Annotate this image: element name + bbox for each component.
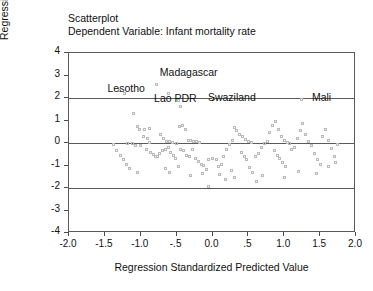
data-point	[115, 149, 118, 152]
x-tick-mark	[104, 232, 105, 236]
data-point	[201, 172, 204, 175]
case-label-lesotho: Lesotho	[107, 82, 144, 94]
data-point	[134, 144, 137, 147]
y-tick-label: 4	[40, 45, 60, 56]
data-point	[299, 129, 302, 132]
data-point	[168, 171, 171, 174]
chart-subtitle: Dependent Variable: Infant mortality rat…	[68, 25, 256, 38]
data-point	[324, 128, 327, 131]
data-point	[171, 141, 174, 144]
x-tick-mark	[140, 232, 141, 236]
data-point	[164, 167, 167, 170]
data-point	[261, 174, 264, 177]
data-point	[155, 83, 158, 86]
data-point	[177, 165, 180, 168]
data-point	[254, 155, 257, 158]
data-point	[296, 137, 299, 140]
data-point	[184, 128, 187, 131]
data-point	[248, 166, 251, 169]
data-point	[142, 135, 145, 138]
data-point	[255, 180, 258, 183]
data-point	[231, 139, 234, 142]
x-tick-label: -1.5	[84, 238, 124, 249]
data-point	[148, 141, 151, 144]
data-point	[327, 165, 330, 168]
data-point	[274, 120, 277, 123]
x-tick-mark	[355, 232, 356, 236]
data-point	[156, 155, 159, 158]
data-point	[119, 154, 122, 157]
data-point	[224, 178, 227, 181]
x-tick-label: -.5	[156, 238, 196, 249]
y-tick-mark	[64, 120, 68, 121]
data-point	[243, 155, 246, 158]
data-point	[281, 161, 284, 164]
data-point	[128, 167, 131, 170]
data-point	[250, 141, 253, 144]
data-point	[181, 124, 184, 127]
data-point	[230, 169, 233, 172]
data-point	[336, 143, 339, 146]
x-tick-label: 2.0	[335, 238, 373, 249]
data-point	[228, 143, 231, 146]
data-point	[290, 148, 293, 151]
data-point	[319, 163, 322, 166]
x-tick-label: 1.5	[299, 238, 339, 249]
data-point	[245, 158, 248, 161]
x-tick-label: -2.0	[48, 238, 88, 249]
data-point	[301, 122, 304, 125]
x-tick-label: -1.0	[120, 238, 160, 249]
data-point	[191, 148, 194, 151]
data-point	[330, 147, 333, 150]
data-point	[179, 105, 182, 108]
y-tick-mark	[64, 52, 68, 53]
plot-canvas	[69, 53, 354, 231]
data-point	[273, 149, 276, 152]
y-tick-mark	[64, 97, 68, 98]
data-point	[240, 151, 243, 154]
data-point	[300, 98, 303, 101]
data-point	[268, 131, 271, 134]
x-tick-mark	[68, 232, 69, 236]
scatterplot-page: Scatterplot Dependent Variable: Infant m…	[0, 0, 373, 291]
y-tick-mark	[64, 165, 68, 166]
data-point	[304, 133, 307, 136]
case-label-lao-pdr: Lao PDR	[154, 92, 197, 104]
data-point	[207, 185, 210, 188]
y-axis-title: Regression Standardized Residual	[0, 0, 10, 40]
data-point	[188, 155, 191, 158]
data-point	[215, 158, 218, 161]
x-tick-mark	[283, 232, 284, 236]
x-tick-mark	[247, 232, 248, 236]
plot-area	[68, 52, 355, 232]
data-point	[148, 127, 151, 130]
data-point	[316, 158, 319, 161]
data-point	[225, 148, 228, 151]
data-point	[132, 112, 135, 115]
x-tick-mark	[176, 232, 177, 236]
data-point	[218, 173, 221, 176]
data-point	[297, 170, 300, 173]
data-point	[284, 165, 287, 168]
data-point	[293, 146, 296, 149]
data-point	[198, 141, 201, 144]
data-point	[241, 135, 244, 138]
data-point	[174, 157, 177, 160]
data-point	[159, 133, 162, 136]
data-point	[211, 157, 214, 160]
data-point	[283, 176, 286, 179]
reference-line-y--2	[69, 188, 354, 189]
data-point	[145, 148, 148, 151]
y-tick-label: 1	[40, 113, 60, 124]
data-point	[167, 146, 170, 149]
y-tick-label: 2	[40, 90, 60, 101]
data-point	[266, 140, 269, 143]
data-point	[271, 124, 274, 127]
data-point	[139, 144, 142, 147]
y-tick-label: 3	[40, 68, 60, 79]
data-point	[136, 171, 139, 174]
data-point	[158, 152, 161, 155]
data-point	[321, 135, 324, 138]
y-tick-label: -3	[40, 203, 60, 214]
case-label-madagascar: Madagascar	[160, 66, 218, 78]
